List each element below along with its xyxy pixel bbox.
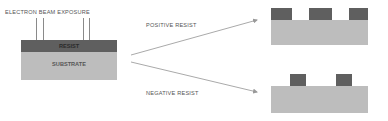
negative-resist-block [336,74,352,86]
negative-substrate [271,86,368,113]
positive-resist-block [271,8,292,20]
positive-substrate [271,20,368,45]
positive-resist-block [309,8,332,20]
negative-resist-block [290,74,306,86]
positive-resist-label: POSITIVE RESIST [146,22,197,28]
positive-resist-block [349,8,368,20]
negative-resist-label: NEGATIVE RESIST [146,90,199,96]
